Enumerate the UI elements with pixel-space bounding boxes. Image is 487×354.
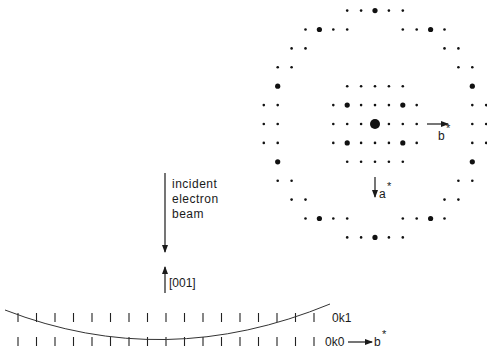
zone-axis-label: [001]: [169, 276, 196, 290]
diffraction-spot: [360, 85, 363, 88]
diffraction-spot: [372, 8, 377, 13]
diffraction-spot: [290, 47, 293, 50]
diffraction-spot: [372, 235, 377, 240]
diffraction-spot: [275, 84, 280, 89]
diffraction-spot: [400, 140, 405, 145]
diffraction-spot: [470, 84, 475, 89]
b-star-label: b: [438, 129, 445, 143]
diffraction-spot: [345, 140, 350, 145]
diffraction-spot: [332, 104, 335, 107]
b-star-superscript: *: [446, 122, 451, 134]
diffraction-spot: [360, 161, 363, 164]
diffraction-spot: [360, 142, 363, 145]
diffraction-spot: [276, 142, 279, 145]
diffraction-spot: [388, 123, 391, 126]
diffraction-spot: [276, 179, 279, 182]
diffraction-spot: [457, 66, 460, 69]
diffraction-spot: [415, 104, 418, 107]
b-star-bottom-label: b: [374, 335, 381, 349]
diffraction-spot: [276, 123, 279, 126]
diffraction-spot: [317, 27, 322, 32]
diffraction-spot: [388, 236, 391, 239]
diffraction-spot: [360, 9, 363, 12]
diffraction-spot: [471, 179, 474, 182]
diffraction-spot: [360, 236, 363, 239]
diffraction-spot: [263, 142, 266, 145]
diffraction-spot: [400, 103, 405, 108]
diffraction-spot: [276, 66, 279, 69]
diffraction-spot: [415, 142, 418, 145]
diffraction-spot: [263, 123, 266, 126]
a-star-superscript: *: [387, 180, 392, 192]
diffraction-spot: [402, 161, 405, 164]
diffraction-spot: [471, 66, 474, 69]
diffraction-spot: [388, 85, 391, 88]
diffraction-spot: [290, 198, 293, 201]
diffraction-spot: [402, 9, 405, 12]
diffraction-spot: [471, 123, 474, 126]
diffraction-spot: [332, 142, 335, 145]
diffraction-spot: [332, 217, 335, 220]
diffraction-spot: [457, 47, 460, 50]
diffraction-spot: [443, 198, 446, 201]
diffraction-spot: [346, 9, 349, 12]
diffraction-spot: [276, 104, 279, 107]
reciprocal-lattice-rows: [18, 313, 314, 346]
diffraction-spot: [346, 161, 349, 164]
diffraction-spot: [317, 216, 322, 221]
diffraction-spot: [360, 104, 363, 107]
diffraction-spot: [443, 217, 446, 220]
b-star-bottom-superscript: *: [382, 328, 387, 340]
lower-row-label: 0k0: [325, 335, 345, 349]
a-star-label: a: [379, 187, 386, 201]
diffraction-spot: [428, 27, 433, 32]
diffraction-spot: [332, 28, 335, 31]
diffraction-spot: [290, 66, 293, 69]
diffraction-spot: [402, 236, 405, 239]
b-star-axis-bottom: b *: [348, 328, 387, 349]
diffraction-spot: [374, 104, 377, 107]
diffraction-spot: [402, 217, 405, 220]
diffraction-spot: [471, 104, 474, 107]
diffraction-spot: [388, 142, 391, 145]
diffraction-spot: [374, 142, 377, 145]
beam-label-line3: beam: [172, 207, 204, 221]
diffraction-spot: [304, 47, 307, 50]
diffraction-spot: [346, 123, 349, 126]
diffraction-spot: [346, 217, 349, 220]
ewald-sphere-arc: [5, 304, 330, 340]
diffraction-spot: [304, 28, 307, 31]
a-star-axis-pattern: a *: [375, 177, 392, 201]
diffraction-spot: [402, 85, 405, 88]
central-spot: [370, 119, 380, 129]
diffraction-spot: [374, 161, 377, 164]
diffraction-spot: [402, 123, 405, 126]
diffraction-spot: [275, 159, 280, 164]
diffraction-spots: [263, 8, 487, 240]
diffraction-spot: [388, 104, 391, 107]
upper-row-label: 0k1: [332, 311, 352, 325]
diffraction-spot: [457, 198, 460, 201]
diffraction-spot: [443, 47, 446, 50]
diffraction-spot: [415, 217, 418, 220]
diffraction-spot: [346, 28, 349, 31]
diffraction-spot: [388, 161, 391, 164]
diffraction-spot: [388, 9, 391, 12]
diffraction-spot: [457, 179, 460, 182]
diffraction-spot: [360, 123, 363, 126]
beam-label-line1: incident: [172, 177, 218, 191]
diffraction-spot: [415, 123, 418, 126]
diffraction-spot: [374, 85, 377, 88]
diffraction-spot: [332, 123, 335, 126]
diffraction-spot: [428, 216, 433, 221]
diffraction-spot: [415, 28, 418, 31]
diffraction-spot: [402, 28, 405, 31]
diffraction-spot: [345, 103, 350, 108]
diffraction-spot: [443, 28, 446, 31]
diffraction-spot: [263, 104, 266, 107]
b-star-axis-pattern: b *: [427, 122, 451, 143]
diffraction-spot: [471, 142, 474, 145]
diffraction-spot: [304, 217, 307, 220]
diffraction-spot: [290, 179, 293, 182]
incident-beam: incident electron beam: [165, 173, 219, 252]
